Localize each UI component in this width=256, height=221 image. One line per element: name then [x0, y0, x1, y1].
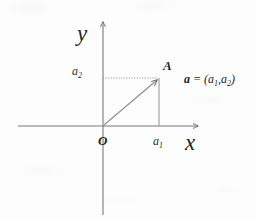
y-tick-label-a2: a2	[72, 65, 82, 80]
vector-notation: a=(a1,a2)	[184, 73, 235, 88]
y-axis-label: y	[77, 22, 87, 45]
vector-equals: =	[193, 72, 201, 86]
coordinate-plot-canvas	[0, 0, 256, 221]
x-tick-subscript: 1	[159, 141, 163, 150]
point-a-label: A	[163, 59, 172, 72]
vector-name: a	[184, 72, 190, 86]
origin-label: O	[98, 134, 107, 147]
vector-diagram-figure: y x O A a2 a1 a=(a1,a2)	[0, 0, 256, 221]
x-tick-label-a1: a1	[153, 135, 163, 150]
x-axis-label: x	[185, 131, 195, 154]
vector-close-paren: )	[231, 72, 235, 86]
y-tick-subscript: 2	[78, 71, 82, 80]
vector-arrow-oa	[104, 80, 157, 125]
